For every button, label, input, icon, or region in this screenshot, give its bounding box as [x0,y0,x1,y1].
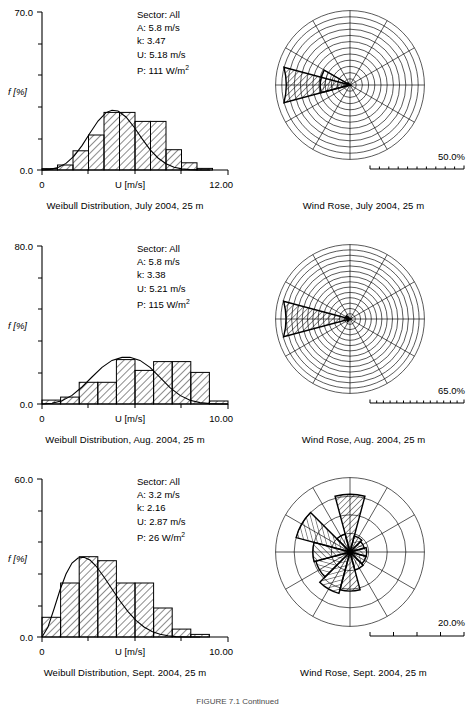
stat-p: P: 26 W/m2 [137,528,186,544]
rose-grid-september [276,478,425,627]
stat-k: k: 3.38 [137,268,190,281]
stat-sector: Sector: All [137,8,189,21]
stat-sector: Sector: All [137,475,186,488]
rose-scale-bar-september [370,632,464,636]
panel-row-august: 80.0 0.0 f [%] 0 10.00 U [m/s] Sector: A… [0,236,475,464]
x-axis-min-label: 0 [39,413,44,424]
rose-caption-july: Wind Rose, July 2004, 25 m [252,200,475,211]
weibull-caption-august: Weibull Distribution, Aug. 2004, 25 m [0,434,250,445]
x-axis-min-label: 0 [39,179,44,190]
figure-container: 70.0 0.0 f [%] 0 12.00 U [m/s] Sector: A… [0,0,475,707]
stat-p-text: P: 111 W/m [137,65,185,76]
x-axis-max-label: 10.00 [209,646,233,657]
weibull-chart-august: 80.0 0.0 f [%] 0 10.00 U [m/s] Sector: A… [0,236,250,464]
stats-block-september: Sector: All A: 3.2 m/s k: 2.16 U: 2.87 m… [137,475,186,544]
x-axis-title: U [m/s] [115,413,145,424]
stats-block-august: Sector: All A: 5.8 m/s k: 3.38 U: 5.21 m… [137,242,190,311]
rose-grid-august [276,245,425,394]
stat-p-exponent: 2 [185,64,189,71]
rose-petals-september [294,494,366,594]
rose-scale-label-august: 65.0% [438,385,465,396]
y-axis-title: f [%] [8,553,27,564]
x-axis-ticks [42,404,228,409]
stat-a: A: 5.8 m/s [137,21,189,34]
stat-p-text: P: 115 W/m [137,299,186,310]
x-axis-ticks [42,637,228,642]
x-axis-title: U [m/s] [115,179,145,190]
y-axis-max-label: 70.0 [15,7,34,18]
wind-rose-july: 50.0% Wind Rose, July 2004, 25 m [252,2,475,230]
stat-a: A: 3.2 m/s [137,488,186,501]
wind-rose-august: 65.0% Wind Rose, Aug. 2004, 25 m [252,236,475,464]
y-axis-max-label: 80.0 [15,241,34,252]
panel-row-september: 60.0 0.0 f [%] 0 10.00 U [m/s] Sector: A… [0,469,475,697]
stat-u: U: 5.21 m/s [137,282,190,295]
figure-caption: FIGURE 7.1 Continued [0,697,475,706]
wind-rose-september: 20.0% Wind Rose, Sept. 2004, 25 m [252,469,475,697]
weibull-caption-july: Weibull Distribution, July 2004, 25 m [0,200,250,211]
y-axis-ticks [37,246,42,404]
y-axis-title: f [%] [8,320,27,331]
weibull-chart-july: 70.0 0.0 f [%] 0 12.00 U [m/s] Sector: A… [0,2,250,230]
x-axis-min-label: 0 [39,646,44,657]
rose-grid-july [276,11,425,160]
rose-scale-label-july: 50.0% [438,151,465,162]
y-axis-ticks [37,12,42,170]
y-axis-min-label: 0.0 [20,399,33,410]
stat-p: P: 115 W/m2 [137,295,190,311]
stat-u: U: 2.87 m/s [137,515,186,528]
x-axis-title: U [m/s] [115,646,145,657]
stats-block-july: Sector: All A: 5.8 m/s k: 3.47 U: 5.18 m… [137,8,189,77]
histogram-bars [42,557,209,637]
x-axis-max-label: 12.00 [209,179,233,190]
wind-rose-svg-september: 20.0% [252,469,475,664]
stat-u: U: 5.18 m/s [137,48,189,61]
wind-rose-svg-july: 50.0% [252,2,475,197]
stat-a: A: 5.8 m/s [137,255,190,268]
weibull-caption-september: Weibull Distribution, Sept. 2004, 25 m [0,667,250,678]
weibull-plot-svg-august: 80.0 0.0 f [%] 0 10.00 U [m/s] [0,236,250,431]
weibull-chart-september: 60.0 0.0 f [%] 0 10.00 U [m/s] Sector: A… [0,469,250,697]
y-axis-max-label: 60.0 [15,474,34,485]
stat-k: k: 2.16 [137,501,186,514]
stat-p: P: 111 W/m2 [137,61,189,77]
rose-scale-label-september: 20.0% [438,617,465,628]
y-axis-title: f [%] [8,86,27,97]
stat-p-exponent: 2 [181,531,185,538]
stat-sector: Sector: All [137,242,190,255]
histogram-bars [42,360,228,404]
y-axis-ticks [37,479,42,637]
x-axis-max-label: 10.00 [209,413,233,424]
rose-caption-august: Wind Rose, Aug. 2004, 25 m [252,434,475,445]
rose-scale-bar-july [370,166,464,170]
wind-rose-svg-august: 65.0% [252,236,475,431]
weibull-plot-svg-september: 60.0 0.0 f [%] 0 10.00 U [m/s] [0,469,250,664]
weibull-plot-svg-july: 70.0 0.0 f [%] 0 12.00 U [m/s] [0,2,250,197]
stat-p-text: P: 26 W/m [137,532,181,543]
y-axis-min-label: 0.0 [20,165,33,176]
stat-k: k: 3.47 [137,34,189,47]
rose-scale-bar-august [370,400,464,404]
panel-row-july: 70.0 0.0 f [%] 0 12.00 U [m/s] Sector: A… [0,2,475,230]
stat-p-exponent: 2 [186,298,190,305]
rose-caption-september: Wind Rose, Sept. 2004, 25 m [252,667,475,678]
x-axis-ticks [42,170,228,175]
y-axis-min-label: 0.0 [20,632,33,643]
